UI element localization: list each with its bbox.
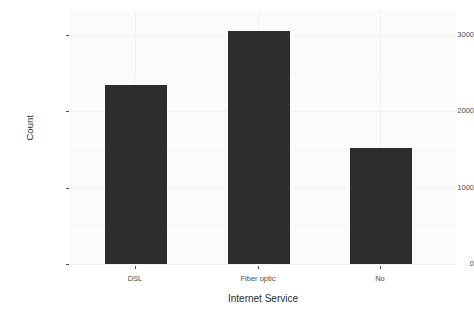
bar-fiber-optic bbox=[228, 31, 290, 264]
bar-dsl bbox=[105, 85, 167, 264]
y-tick-mark-2000 bbox=[66, 111, 69, 112]
bar-no bbox=[350, 148, 412, 264]
y-tick-label-0: 0 bbox=[412, 260, 474, 268]
x-tick-label-fiber-optic: Fiber optic bbox=[208, 274, 308, 283]
chart-screenshot: 3000 2000 1000 0 Count DSL Fiber optic N… bbox=[0, 0, 474, 322]
x-tick-mark-dsl bbox=[135, 266, 136, 269]
y-tick-mark-3000 bbox=[66, 35, 69, 36]
y-tick-mark-1000 bbox=[66, 188, 69, 189]
x-tick-mark-no bbox=[380, 266, 381, 269]
y-tick-label-1000: 1000 bbox=[412, 184, 474, 192]
x-tick-label-no: No bbox=[330, 274, 430, 283]
y-tick-mark-0 bbox=[66, 264, 69, 265]
y-axis-title: Count bbox=[24, 127, 35, 141]
x-axis-title: Internet Service bbox=[70, 293, 456, 304]
x-tick-mark-fiber-optic bbox=[258, 266, 259, 269]
y-tick-label-2000: 2000 bbox=[412, 107, 474, 115]
y-tick-label-3000: 3000 bbox=[412, 31, 474, 39]
gridline-major-0 bbox=[70, 264, 456, 265]
plot-panel bbox=[70, 10, 456, 265]
x-tick-label-dsl: DSL bbox=[85, 274, 185, 283]
